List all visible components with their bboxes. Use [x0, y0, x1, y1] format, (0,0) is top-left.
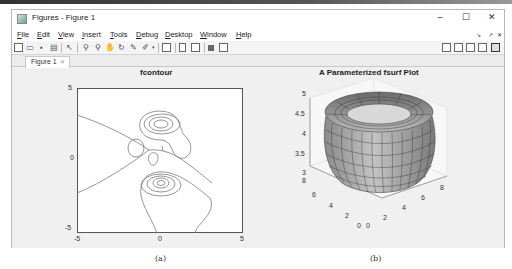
figure-canvas: fcontour 5 0 -5 -5 0 5 [12, 68, 504, 248]
tab-label: Figure 1 [31, 58, 57, 65]
select-arrow-icon[interactable]: ↖ [65, 43, 74, 52]
show-plot-tools-icon[interactable] [219, 43, 228, 52]
menu-insert[interactable]: Insert [82, 30, 101, 39]
window-title: Figures - Figure 1 [32, 13, 95, 22]
dock-icon[interactable]: ↗ [488, 31, 493, 38]
y-tick: 5 [68, 84, 72, 91]
maximize-button[interactable]: ☐ [459, 12, 473, 22]
tile-columns-icon[interactable] [454, 43, 463, 52]
menu-edit[interactable]: Edit [37, 30, 50, 39]
figure-tab-strip: Figure 1 ✕ [12, 55, 504, 67]
toolbar: ▭ ▪ ▤ ↖ ⚲ ⚲ ✋ ↻ ✎ ✐ ▾ [12, 41, 504, 55]
caption-a: (a) [155, 254, 166, 263]
brush-dropdown-icon[interactable]: ▾ [150, 43, 156, 52]
menu-view[interactable]: View [58, 30, 74, 39]
tile-rows-icon[interactable] [466, 43, 475, 52]
open-file-icon[interactable]: ▭ [25, 43, 34, 52]
toolbar-separator [175, 43, 176, 53]
float-icon[interactable] [478, 43, 487, 52]
hide-plot-tools-icon[interactable] [208, 45, 214, 51]
matlab-figure-icon [17, 14, 27, 24]
link-plot-icon[interactable] [162, 43, 171, 52]
zoom-out-icon[interactable]: ⚲ [93, 43, 102, 52]
menu-help[interactable]: Help [236, 30, 251, 39]
menu-bar: File Edit View Insert Tools Debug Deskto… [12, 28, 504, 41]
close-button[interactable]: ✕ [485, 12, 499, 22]
toolbar-separator [61, 43, 62, 53]
menu-window[interactable]: Window [200, 30, 227, 39]
menu-desktop[interactable]: Desktop [165, 30, 193, 39]
fsurf-axes[interactable] [302, 78, 462, 228]
menu-debug[interactable]: Debug [136, 30, 158, 39]
tile-grid-icon[interactable] [442, 43, 451, 52]
contour-axes[interactable] [77, 88, 243, 233]
y-tick: 0 [70, 154, 74, 161]
toolbar-separator [77, 43, 78, 53]
x-tick: -5 [74, 235, 80, 242]
menu-tools[interactable]: Tools [110, 30, 128, 39]
pan-icon[interactable]: ✋ [105, 43, 114, 52]
figure-window: Figures - Figure 1 – ☐ ✕ File Edit View … [11, 9, 505, 248]
new-figure-icon[interactable] [14, 43, 23, 52]
colorbar-icon[interactable] [179, 43, 186, 52]
tab-close-icon[interactable]: ✕ [60, 58, 65, 65]
caption-b: (b) [370, 254, 381, 263]
rotate-3d-icon[interactable]: ↻ [117, 43, 126, 52]
x-tick: 0 [158, 235, 162, 242]
zoom-in-icon[interactable]: ⚲ [81, 43, 90, 52]
tab-figure-1[interactable]: Figure 1 ✕ [25, 56, 70, 68]
maximize-figure-icon[interactable] [491, 43, 500, 52]
brush-icon[interactable]: ✐ [141, 43, 150, 52]
title-bar: Figures - Figure 1 – ☐ ✕ [12, 10, 504, 28]
data-cursor-icon[interactable]: ✎ [129, 43, 138, 52]
contour-title: fcontour [140, 68, 172, 77]
minimize-button[interactable]: – [433, 12, 447, 22]
toolbar-separator [158, 43, 159, 53]
close-figure-icon[interactable]: ✕ [497, 31, 502, 38]
cropped-top-border [0, 0, 512, 4]
undock-icon[interactable]: ↘ [476, 31, 481, 38]
menu-file[interactable]: File [17, 30, 29, 39]
y-tick: -5 [65, 224, 71, 231]
legend-icon[interactable] [191, 43, 200, 52]
toolbar-separator [204, 43, 205, 53]
x-tick: 5 [240, 235, 244, 242]
print-icon[interactable]: ▤ [49, 43, 58, 52]
save-icon[interactable]: ▪ [37, 43, 46, 52]
fsurf-title: A Parameterized fsurf Plot [319, 68, 419, 77]
